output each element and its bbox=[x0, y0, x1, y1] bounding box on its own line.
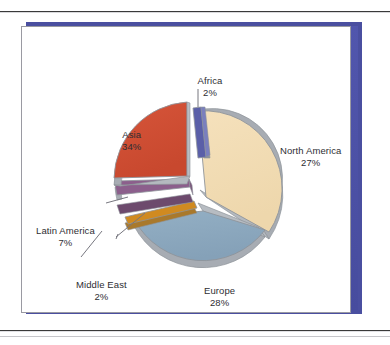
figure-page: Africa 2% North America 27% Asia 34% Lat… bbox=[0, 0, 390, 345]
label-asia: Asia 34% bbox=[122, 129, 141, 152]
label-africa-percent: 2% bbox=[198, 87, 223, 99]
label-europe-name: Europe bbox=[204, 285, 235, 297]
pie-chart: Africa 2% North America 27% Asia 34% Lat… bbox=[22, 27, 352, 314]
label-north-america-name: North America bbox=[280, 145, 342, 157]
label-latin-america-name: Latin America bbox=[36, 225, 95, 237]
label-middle-east-percent: 2% bbox=[76, 291, 127, 303]
label-latin-america: Latin America 7% bbox=[36, 225, 95, 248]
top-rule bbox=[0, 11, 390, 12]
bottom-rule bbox=[0, 330, 390, 331]
label-europe-percent: 28% bbox=[204, 297, 235, 309]
label-asia-percent: 34% bbox=[122, 141, 141, 153]
label-asia-name: Asia bbox=[122, 129, 141, 141]
label-north-america: North America 27% bbox=[280, 145, 342, 168]
label-africa: Africa 2% bbox=[198, 75, 223, 98]
label-middle-east-name: Middle East bbox=[76, 279, 127, 291]
label-middle-east: Middle East 2% bbox=[76, 279, 127, 302]
chart-card: Africa 2% North America 27% Asia 34% Lat… bbox=[21, 26, 351, 313]
label-europe: Europe 28% bbox=[204, 285, 235, 308]
label-africa-name: Africa bbox=[198, 75, 223, 87]
label-latin-america-percent: 7% bbox=[36, 237, 95, 249]
bottom-rule-secondary bbox=[0, 336, 390, 337]
label-north-america-percent: 27% bbox=[280, 157, 342, 169]
